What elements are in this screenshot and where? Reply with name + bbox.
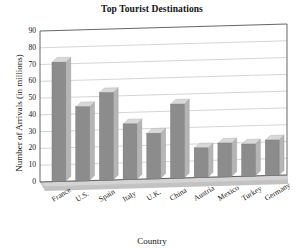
bar-france: [52, 57, 71, 182]
plot-area: [38, 22, 288, 188]
bar-us: [76, 102, 95, 181]
plot-svg: [38, 22, 288, 198]
bar-spain: [99, 88, 118, 181]
y-tick-label: 50: [16, 94, 36, 102]
y-tick-label: 0: [16, 178, 36, 186]
y-tick-label: 90: [16, 27, 36, 35]
gridline: [40, 41, 287, 48]
bar-mexico: [218, 138, 237, 177]
gridline: [40, 91, 287, 98]
chart-title: Top Tourist Destinations: [0, 4, 304, 14]
y-tick-label: 80: [16, 44, 36, 52]
y-axis-tick-labels: 0102030405060708090: [14, 22, 36, 192]
y-tick-label: 60: [16, 77, 36, 85]
y-tick-label: 70: [16, 61, 36, 69]
y-tick-label: 10: [16, 161, 36, 169]
bar-italy: [123, 119, 142, 180]
y-tick-label: 30: [16, 128, 36, 136]
bar-germany: [265, 135, 284, 176]
bar-austria: [194, 143, 213, 178]
gridline: [40, 24, 287, 31]
gridline: [40, 74, 287, 81]
bar-chart: Top Tourist Destinations Number of Arriv…: [0, 0, 304, 248]
bar-turkey: [242, 139, 261, 176]
bar-china: [170, 99, 189, 178]
bar-uk: [147, 128, 166, 179]
x-axis-title: Country: [0, 236, 304, 246]
y-tick-label: 20: [16, 144, 36, 152]
gridline: [40, 58, 287, 65]
y-tick-label: 40: [16, 111, 36, 119]
x-tick-label: U.S.: [74, 189, 90, 204]
x-axis-tick-labels: FranceU.S.SpainItalyU.K.ChinaAustriaMexi…: [0, 192, 304, 232]
